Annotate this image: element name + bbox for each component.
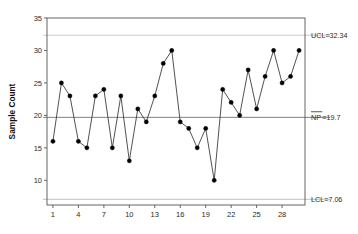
x-tick-label-16: 16 [176,210,184,219]
y-tick-label-10: 10 [34,176,42,185]
data-point: 27: 30 [272,48,276,52]
data-point: 18: 15 [195,146,199,150]
data-point: 6: 23 [93,94,97,98]
ucl-label: UCL=32.34 [311,31,348,40]
x-tick-label-4: 4 [76,210,80,219]
x-tick-label-28: 28 [278,210,286,219]
data-point: 17: 18 [187,126,191,130]
x-tick-label-19: 19 [202,210,210,219]
data-point: 12: 19 [144,120,148,124]
data-point: 2: 25 [59,81,63,85]
data-point: 4: 16 [76,139,80,143]
data-point: 24: 27 [246,68,250,72]
data-point: 7: 24 [102,87,106,91]
lcl-label: LCL=7.06 [311,195,342,204]
data-point: 14: 28 [161,61,165,65]
np-control-chart: 101520253035147101316192225281: 162: 253… [0,0,358,234]
y-axis-label: Sample Count [7,83,17,139]
data-point: 25: 21 [255,107,259,111]
x-tick-label-10: 10 [125,210,133,219]
data-point: 13: 23 [153,94,157,98]
data-point: 28: 25 [280,81,284,85]
x-tick-label-1: 1 [51,210,55,219]
data-point: 19: 18 [204,126,208,130]
data-point: 20: 10 [212,178,216,182]
x-tick-label-22: 22 [227,210,235,219]
y-tick-label-15: 15 [34,144,42,153]
data-point: 15: 30 [170,48,174,52]
x-tick-label-13: 13 [151,210,159,219]
x-tick-label-7: 7 [102,210,106,219]
y-tick-label-25: 25 [34,79,42,88]
center-label-value: =19.7 [322,113,340,122]
chart-canvas: 101520253035147101316192225281: 162: 253… [0,0,358,234]
data-point: 16: 19 [178,120,182,124]
y-tick-label-20: 20 [34,111,42,120]
data-point: 3: 23 [68,94,72,98]
data-point: 8: 15 [110,146,114,150]
data-point: 1: 16 [51,139,55,143]
data-point: 23: 20 [238,113,242,117]
data-point: 11: 21 [136,107,140,111]
y-tick-label-30: 30 [34,46,42,55]
data-point: 29: 26 [288,74,292,78]
data-point: 21: 24 [221,87,225,91]
data-point: 22: 22 [229,100,233,104]
x-tick-label-25: 25 [252,210,260,219]
data-point: 30: 30 [297,48,301,52]
data-point: 9: 23 [119,94,123,98]
center-label-symbol: NP [311,113,321,122]
y-tick-label-35: 35 [34,14,42,23]
data-point: 10: 13 [127,159,131,163]
data-point: 5: 15 [85,146,89,150]
data-point: 26: 26 [263,74,267,78]
